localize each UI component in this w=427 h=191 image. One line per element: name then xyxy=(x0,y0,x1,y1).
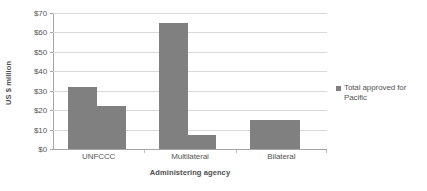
y-axis-tickmark xyxy=(50,130,53,131)
y-axis-tick-label: $30 xyxy=(34,86,47,95)
bar-chart: US $ million $0$10$20$30$40$50$60$70 UNF… xyxy=(0,0,427,191)
x-axis-tick-label: UNFCCC xyxy=(82,152,115,161)
y-axis-tickmark xyxy=(50,13,53,14)
y-axis-tick-label: $10 xyxy=(34,125,47,134)
y-axis-title: US $ million xyxy=(4,48,13,118)
chart-legend: Total approved for Pacific xyxy=(336,83,424,103)
y-axis-tickmark xyxy=(50,71,53,72)
y-axis-tick-label: $0 xyxy=(38,145,47,154)
bar xyxy=(68,87,97,149)
plot-area xyxy=(53,13,327,150)
y-axis-tick-label: $20 xyxy=(34,106,47,115)
y-axis-tickmark xyxy=(50,110,53,111)
x-axis-title: Administering agency xyxy=(53,168,327,177)
y-axis-tick-label: $60 xyxy=(34,28,47,37)
legend-item-label: Total approved for Pacific xyxy=(344,83,424,103)
bar xyxy=(97,106,126,149)
y-axis-tickmark xyxy=(50,149,53,150)
y-axis-tickmark xyxy=(50,91,53,92)
x-axis-tick-label: Multilateral xyxy=(171,152,208,161)
x-axis-line xyxy=(53,149,327,150)
y-axis-tickmark xyxy=(50,32,53,33)
gridline xyxy=(53,71,327,72)
x-axis-tick-label: Bilateral xyxy=(267,152,295,161)
y-axis-tickmark xyxy=(50,52,53,53)
x-axis-tick-labels: UNFCCCMultilateralBilateral xyxy=(53,152,327,166)
legend-square-icon xyxy=(336,86,341,91)
gridline xyxy=(53,52,327,53)
y-axis-tick-label: $50 xyxy=(34,47,47,56)
bar xyxy=(188,135,216,149)
y-axis-tick-label: $70 xyxy=(34,9,47,18)
bar xyxy=(159,23,188,149)
bar xyxy=(250,120,300,149)
y-axis-tick-labels: $0$10$20$30$40$50$60$70 xyxy=(14,13,50,150)
gridline xyxy=(53,32,327,33)
y-axis-tick-label: $40 xyxy=(34,67,47,76)
gridline xyxy=(53,13,327,14)
